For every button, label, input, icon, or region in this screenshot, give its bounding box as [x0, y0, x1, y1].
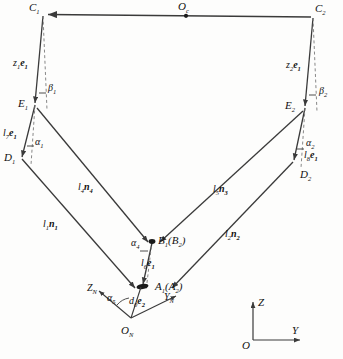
node-label-e2: E2 [285, 100, 295, 114]
angle-label-alpha5: α5 [107, 293, 116, 306]
angle-label-alpha4: α4 [131, 238, 140, 251]
axis-label-o: O [242, 340, 250, 351]
axis-label-zn: ZN [87, 283, 97, 296]
node-label-c2: C2 [315, 3, 326, 17]
node-label-b1-b2: B1(B2) [158, 235, 185, 249]
node-label-e1: E1 [18, 98, 28, 112]
node-label-d2: D2 [300, 169, 311, 183]
vector-label-z2e1: z2e1 [286, 60, 301, 73]
angle-label-beta1: β1 [48, 83, 56, 96]
member-c1-e1 [35, 16, 47, 110]
node-label-c1: C1 [29, 2, 40, 16]
axis-label-yn: YN [164, 292, 174, 305]
vector-label-d0e2: d0e2 [129, 296, 145, 309]
vector-label-l2n2: l2n2 [225, 229, 240, 242]
node-point-b [149, 239, 156, 244]
node-label-oc: Oc [178, 1, 189, 15]
vector-label-l6e1: l6e1 [141, 258, 155, 271]
angle-arc-alpha5 [117, 298, 129, 305]
member-e1-d1 [22, 105, 35, 165]
dashed-ref-right-upper [313, 18, 317, 112]
axis-label-y: Y [292, 325, 298, 336]
vector-label-z1e1: z1e1 [13, 58, 28, 71]
axis-label-on: ON [121, 325, 133, 339]
vector-label-l1n1: l1n1 [43, 219, 58, 232]
vector-label-l8e1: l8e1 [304, 150, 318, 163]
member-d1-a [22, 159, 135, 288]
angle-label-beta2: β2 [319, 86, 327, 99]
member-d2-a [172, 162, 293, 288]
axis-label-z: Z [258, 297, 264, 308]
mechanism-linework [0, 0, 343, 359]
vector-label-l4n4: l4n4 [78, 182, 93, 195]
figure-canvas: C1 Oc C2 z1e1 β1 E1 l7e1 α1 D1 l4n4 l1n1… [0, 0, 343, 359]
member-e2-b [160, 111, 303, 242]
angle-label-alpha1: α1 [35, 137, 44, 150]
dashed-ref-left-upper [43, 16, 47, 110]
vector-label-l7e1: l7e1 [3, 128, 17, 141]
node-label-d1: D1 [4, 152, 15, 166]
node-marker-a [136, 283, 149, 290]
vector-label-l5n3: l5n3 [213, 184, 228, 197]
member-c2-e2 [305, 18, 317, 112]
